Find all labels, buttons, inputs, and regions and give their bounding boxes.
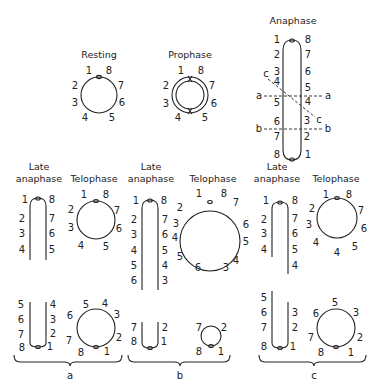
prophase-inner-ring [176, 81, 204, 109]
svg-text:7: 7 [233, 197, 239, 208]
svg-text:8: 8 [305, 34, 311, 45]
svg-text:5: 5 [261, 292, 267, 303]
svg-text:7: 7 [274, 131, 280, 142]
panel-a: Late anaphase Telophase 1 2 3 4 8 7 6 5 … [14, 161, 122, 381]
svg-text:anaphase: anaphase [16, 173, 62, 184]
svg-text:1: 1 [290, 341, 296, 352]
svg-text:6: 6 [313, 308, 319, 319]
svg-text:5: 5 [162, 245, 168, 256]
svg-text:2: 2 [131, 214, 137, 225]
ring-chromosome-diagram: Resting 1 8 2 7 3 6 4 5 Prophase 1 8 2 7… [0, 0, 383, 387]
svg-text:4: 4 [131, 245, 137, 256]
svg-text:7: 7 [308, 332, 314, 343]
svg-text:2: 2 [261, 214, 267, 225]
svg-text:6: 6 [131, 275, 137, 286]
prophase-outer-ring [172, 77, 208, 113]
svg-text:6: 6 [119, 97, 125, 108]
svg-text:2: 2 [72, 80, 78, 91]
svg-text:2: 2 [304, 131, 310, 142]
svg-text:anaphase: anaphase [254, 173, 300, 184]
svg-text:1: 1 [22, 194, 28, 205]
svg-text:5: 5 [305, 82, 311, 93]
svg-text:8: 8 [346, 189, 352, 200]
svg-text:7: 7 [305, 49, 311, 60]
svg-text:6: 6 [211, 98, 217, 109]
svg-text:1: 1 [133, 195, 139, 206]
svg-text:1: 1 [178, 65, 184, 76]
svg-text:5: 5 [83, 299, 89, 310]
svg-text:3: 3 [162, 275, 168, 286]
svg-text:7: 7 [162, 214, 168, 225]
cut-labels: a a b b c c [256, 68, 331, 134]
svg-text:6: 6 [116, 223, 122, 234]
svg-text:7: 7 [114, 205, 120, 216]
svg-text:8: 8 [221, 188, 227, 199]
svg-text:4: 4 [172, 232, 178, 243]
svg-text:5: 5 [103, 241, 109, 252]
svg-text:3: 3 [131, 229, 137, 240]
svg-text:7: 7 [18, 329, 24, 340]
svg-text:4: 4 [50, 299, 56, 310]
svg-text:4: 4 [78, 240, 84, 251]
svg-text:7: 7 [118, 80, 124, 91]
svg-text:8: 8 [106, 65, 112, 76]
svg-text:2: 2 [177, 202, 183, 213]
svg-text:3: 3 [261, 228, 267, 239]
svg-text:5: 5 [177, 251, 183, 262]
svg-text:1: 1 [104, 346, 110, 357]
svg-text:2: 2 [162, 322, 168, 333]
svg-text:7: 7 [358, 205, 364, 216]
svg-text:4: 4 [175, 112, 181, 123]
svg-text:8: 8 [274, 149, 280, 160]
svg-text:4: 4 [313, 237, 319, 248]
svg-text:2: 2 [357, 332, 363, 343]
svg-text:5: 5 [243, 236, 249, 247]
anaphase-left-labels: 1 2 3 4 5 6 7 8 [274, 34, 280, 160]
svg-text:8: 8 [49, 194, 55, 205]
svg-text:4: 4 [305, 96, 311, 107]
svg-text:1: 1 [323, 189, 329, 200]
svg-text:4: 4 [102, 298, 108, 309]
svg-text:4: 4 [274, 76, 280, 87]
svg-text:7: 7 [261, 322, 267, 333]
svg-text:8: 8 [292, 195, 298, 206]
panel-b: Late anaphase Telophase 1 2 3 4 5 6 8 7 … [128, 161, 249, 381]
svg-text:anaphase: anaphase [128, 173, 174, 184]
svg-text:6: 6 [18, 314, 24, 325]
svg-text:1: 1 [263, 195, 269, 206]
svg-text:b: b [256, 123, 262, 134]
svg-text:7: 7 [209, 80, 215, 91]
svg-text:3: 3 [353, 307, 359, 318]
svg-text:a: a [325, 90, 331, 101]
svg-text:8: 8 [318, 347, 324, 358]
svg-text:3: 3 [19, 228, 25, 239]
svg-text:8: 8 [78, 347, 84, 358]
svg-text:6: 6 [361, 223, 367, 234]
svg-text:6: 6 [195, 262, 201, 273]
svg-text:8: 8 [161, 195, 167, 206]
svg-text:8: 8 [198, 65, 204, 76]
svg-text:3: 3 [72, 97, 78, 108]
svg-text:1: 1 [274, 34, 280, 45]
svg-text:5: 5 [292, 244, 298, 255]
svg-text:6: 6 [162, 229, 168, 240]
title-anaphase: Anaphase [269, 15, 316, 26]
svg-text:7: 7 [131, 322, 137, 333]
svg-text:1: 1 [196, 188, 202, 199]
svg-text:4: 4 [162, 260, 168, 271]
svg-text:b: b [325, 123, 331, 134]
late-a-top-arm [30, 198, 46, 260]
svg-text:6: 6 [305, 66, 311, 77]
prophase-labels: 1 8 2 7 3 6 4 5 [163, 65, 217, 123]
svg-text:Telophase: Telophase [311, 173, 359, 184]
svg-text:8: 8 [131, 336, 137, 347]
svg-text:8: 8 [196, 346, 202, 357]
svg-text:c: c [311, 370, 317, 381]
svg-text:1: 1 [348, 347, 354, 358]
svg-text:3: 3 [173, 218, 179, 229]
anaphase-stretched-ring [283, 40, 301, 160]
svg-text:3: 3 [304, 115, 310, 126]
svg-text:Late: Late [141, 161, 162, 172]
svg-text:5: 5 [274, 97, 280, 108]
svg-text:6: 6 [67, 310, 73, 321]
